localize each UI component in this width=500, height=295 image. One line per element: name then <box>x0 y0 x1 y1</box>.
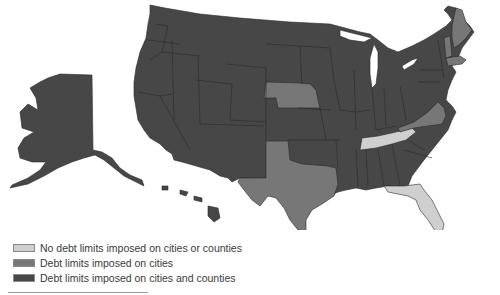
legend-swatch-dark <box>13 274 35 282</box>
legend-swatch-light <box>13 244 35 252</box>
legend-swatch-medium <box>13 259 35 267</box>
legend: No debt limits imposed on cities or coun… <box>13 240 242 285</box>
state-massachusetts <box>446 56 466 66</box>
legend-item-cities-counties: Debt limits imposed on cities and counti… <box>13 270 242 285</box>
state-maine <box>452 8 472 48</box>
legend-item-cities: Debt limits imposed on cities <box>13 255 242 270</box>
us-map <box>0 0 500 230</box>
state-florida <box>384 184 444 230</box>
divider-rule <box>8 292 148 293</box>
legend-label: Debt limits imposed on cities <box>40 257 173 269</box>
legend-label: Debt limits imposed on cities and counti… <box>40 272 236 284</box>
state-alaska <box>10 74 144 188</box>
legend-item-no-limits: No debt limits imposed on cities or coun… <box>13 240 242 255</box>
legend-label: No debt limits imposed on cities or coun… <box>40 242 242 254</box>
state-hawaii <box>162 186 220 222</box>
